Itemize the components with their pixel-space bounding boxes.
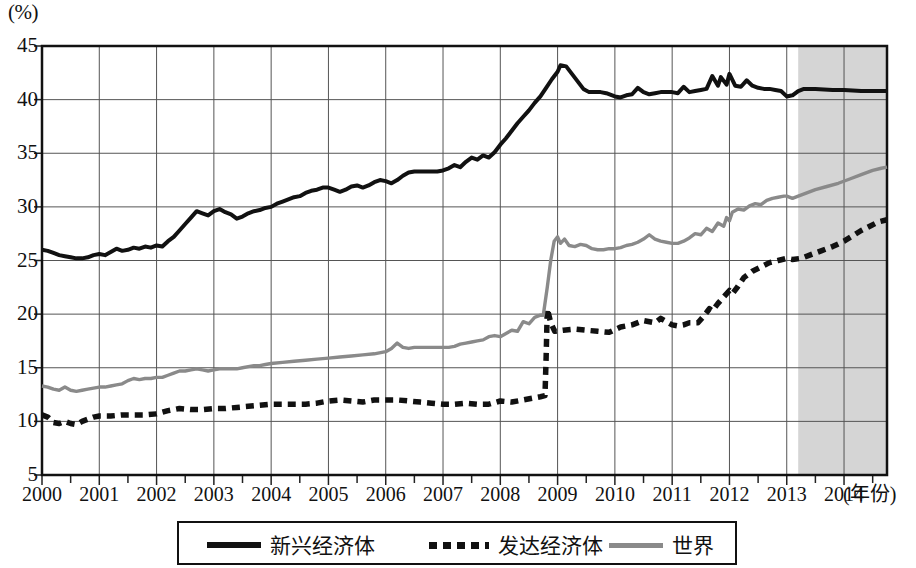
- chart-container: (%) 45403530252015105 200020012002200320…: [0, 0, 916, 568]
- legend-swatch-dotted-black-icon: [429, 542, 489, 549]
- x-axis-label: 2002: [137, 484, 177, 504]
- y-axis-label: 30: [4, 196, 38, 217]
- chart-legend: 新兴经济体发达经济体世界: [177, 521, 737, 565]
- y-axis-label: 5: [4, 464, 38, 485]
- y-axis-label: 15: [4, 357, 38, 378]
- y-axis-label: 20: [4, 303, 38, 324]
- y-axis-label: 45: [4, 35, 38, 56]
- y-axis-label: 40: [4, 89, 38, 110]
- x-axis-label: 2009: [538, 484, 578, 504]
- x-axis-label: 2005: [308, 484, 348, 504]
- x-axis-label: 2008: [480, 484, 520, 504]
- series-line-1: [42, 65, 887, 258]
- series-line-3: [42, 167, 887, 391]
- x-axis-label: 2004: [251, 484, 291, 504]
- x-axis-label: 2010: [595, 484, 635, 504]
- x-axis-label: 2001: [79, 484, 119, 504]
- y-axis-label: 10: [4, 410, 38, 431]
- x-axis-label: 2013: [767, 484, 807, 504]
- y-axis-label: 35: [4, 142, 38, 163]
- legend-item: 新兴经济体: [207, 523, 375, 567]
- series-line-2: [42, 220, 887, 425]
- x-axis-label: 2003: [194, 484, 234, 504]
- x-axis-label: 2012: [709, 484, 749, 504]
- y-axis-label: 25: [4, 250, 38, 271]
- x-axis-title: (年份): [843, 484, 896, 504]
- legend-label: 新兴经济体: [270, 535, 375, 556]
- legend-swatch-solid-gray-icon: [609, 543, 663, 548]
- x-axis-label: 2000: [22, 484, 62, 504]
- x-axis-label: 2011: [653, 484, 692, 504]
- legend-label: 发达经济体: [498, 535, 603, 556]
- legend-swatch-solid-black-icon: [207, 542, 261, 548]
- x-axis-label: 2007: [423, 484, 463, 504]
- legend-label: 世界: [672, 535, 714, 556]
- legend-item: 世界: [609, 523, 714, 567]
- x-axis-label: 2006: [366, 484, 406, 504]
- legend-item: 发达经济体: [429, 523, 603, 567]
